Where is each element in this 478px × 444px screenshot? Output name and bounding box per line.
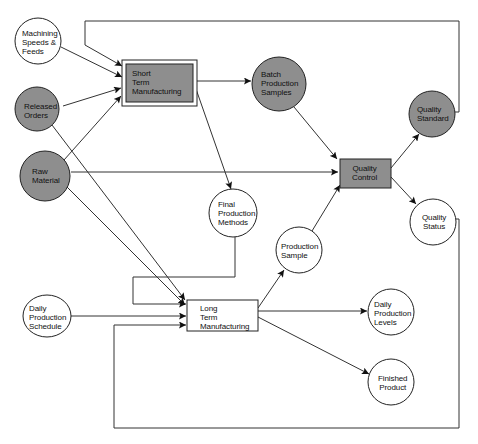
edge-machining-to-short-term [61, 47, 122, 77]
label-quality-status: Quality Status [422, 213, 446, 231]
label-raw-material: Raw Material [32, 167, 60, 185]
edge-quality-control-to-status [391, 177, 416, 204]
label-released-orders: Released Orders [24, 102, 57, 120]
edge-released-orders-to-long-term [52, 125, 185, 300]
edge-raw-material-to-long-term [67, 187, 185, 305]
edge-short-term-to-final-methods [196, 89, 231, 189]
label-daily-levels: Daily Production Levels [374, 300, 411, 327]
label-final-methods: Final Production Methods [218, 200, 255, 227]
edge-raw-material-to-short-term [64, 96, 121, 160]
label-short-term: Short Term Manufacturing [132, 69, 181, 96]
label-quality-control: Quality Control [352, 164, 377, 182]
label-machining: Machining Speeds & Feeds [22, 29, 58, 56]
edge-quality-control-to-standard [391, 134, 419, 168]
label-long-term: Long Term Manufacturing [200, 304, 249, 331]
label-production-sample: Production Sample [281, 242, 318, 260]
label-batch-samples: Batch Production Samples [261, 70, 298, 97]
edge-production-sample-to-quality-control [312, 185, 340, 231]
edge-released-orders-to-short-term [63, 88, 121, 106]
label-daily-schedule: Daily Production Schedule [29, 304, 66, 331]
edge-long-term-to-finished-product [258, 317, 369, 374]
label-quality-standard: Quality Standard [417, 105, 449, 123]
label-finished-product: Finished Product [378, 374, 407, 392]
edge-long-term-to-production-sample [258, 270, 284, 308]
edge-batch-to-quality-control [294, 107, 337, 159]
edge-final-methods-to-long-term [133, 237, 235, 304]
